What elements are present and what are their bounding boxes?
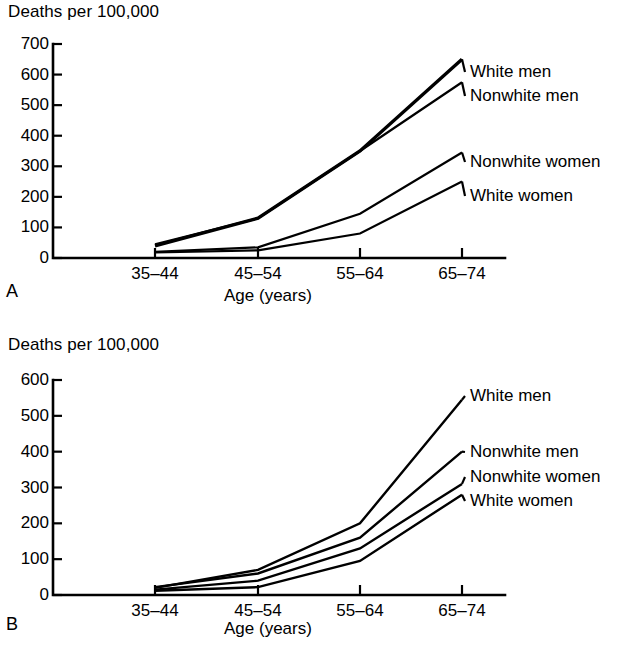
y-tick-label: 300 xyxy=(0,157,49,175)
series-label: White women xyxy=(470,186,573,205)
y-tick-label: 200 xyxy=(0,514,49,532)
y-tick-label: 600 xyxy=(0,371,49,389)
y-tick-label: 600 xyxy=(0,66,49,84)
y-tick-label: 100 xyxy=(0,218,49,236)
x-tick-label: 35–44 xyxy=(110,602,200,620)
series-label: White men xyxy=(470,386,551,405)
series-label: White women xyxy=(470,491,573,510)
series-line xyxy=(155,82,462,244)
series-leader-line xyxy=(462,153,465,162)
y-tick-label: 100 xyxy=(0,550,49,568)
y-tick-label: 200 xyxy=(0,188,49,206)
panel-a: Deaths per 100,000 Age (years) A 0100200… xyxy=(0,0,640,322)
y-tick-label: 500 xyxy=(0,407,49,425)
x-tick-label: 65–74 xyxy=(417,265,507,283)
series-line xyxy=(155,400,462,588)
series-line xyxy=(155,452,462,587)
x-tick-label: 55–64 xyxy=(315,602,405,620)
y-tick-label: 300 xyxy=(0,479,49,497)
axis-lines xyxy=(53,380,505,595)
x-tick-label: 65–74 xyxy=(417,602,507,620)
panel-b-letter: B xyxy=(6,614,18,634)
axis-lines xyxy=(53,44,505,258)
series-leader-line xyxy=(462,477,465,484)
series-leader-line xyxy=(462,396,465,400)
series-label: Nonwhite women xyxy=(470,467,600,486)
x-tick-label: 55–64 xyxy=(315,265,405,283)
series-leader-line xyxy=(462,182,465,196)
panel-b-x-axis-title: Age (years) xyxy=(224,619,312,639)
panel-a-x-axis-title: Age (years) xyxy=(224,286,312,306)
series-leader-line xyxy=(462,495,465,501)
y-tick-label: 0 xyxy=(0,586,49,604)
series-line xyxy=(155,182,462,253)
figure-mortality-by-age: Deaths per 100,000 Age (years) A 0100200… xyxy=(0,0,640,645)
series-leader-line xyxy=(462,59,465,72)
x-tick-label: 35–44 xyxy=(110,265,200,283)
series-line xyxy=(155,59,462,245)
y-tick-label: 0 xyxy=(0,249,49,267)
panel-b: Deaths per 100,000 Age (years) B 0100200… xyxy=(0,322,640,645)
y-tick-label: 700 xyxy=(0,35,49,53)
series-line xyxy=(155,153,462,252)
series-label: Nonwhite men xyxy=(470,442,579,461)
y-tick-label: 400 xyxy=(0,443,49,461)
panel-a-letter: A xyxy=(6,281,18,301)
x-tick-label: 45–54 xyxy=(213,265,303,283)
series-line xyxy=(155,495,462,591)
y-tick-label: 500 xyxy=(0,96,49,114)
y-tick-label: 400 xyxy=(0,127,49,145)
x-tick-label: 45–54 xyxy=(213,602,303,620)
series-label: Nonwhite men xyxy=(470,86,579,105)
series-leader-line xyxy=(462,82,465,96)
series-label: Nonwhite women xyxy=(470,152,600,171)
series-label: White men xyxy=(470,62,551,81)
